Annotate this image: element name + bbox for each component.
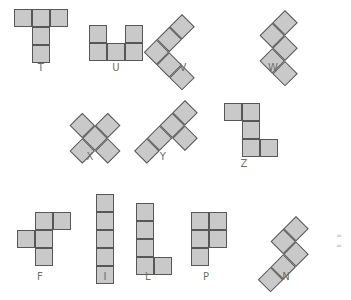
pentomino-p-cell — [191, 230, 209, 248]
pentomino-z-cell — [260, 139, 278, 157]
pentomino-label-x: X — [70, 152, 110, 162]
pentomino-t-cell — [14, 9, 32, 27]
edge-artifact-mark: ≈ — [336, 233, 342, 240]
pentomino-l-cell — [136, 203, 154, 221]
pentomino-p-cell — [191, 248, 209, 266]
edge-artifact-mark: ≈ — [336, 243, 342, 250]
pentomino-u-cell — [125, 43, 143, 61]
pentomino-u-cell — [107, 43, 125, 61]
pentomino-f-cell — [35, 212, 53, 230]
pentomino-label-f: F — [20, 272, 60, 282]
pentomino-f-cell — [35, 230, 53, 248]
pentomino-u-cell — [89, 25, 107, 43]
pentomino-i-cell — [96, 212, 114, 230]
pentomino-label-v: V — [163, 63, 203, 73]
pentomino-label-u: U — [96, 63, 136, 73]
pentomino-label-i: I — [85, 272, 125, 282]
pentomino-l-cell — [136, 221, 154, 239]
pentomino-z-cell — [224, 103, 242, 121]
pentomino-t-cell — [32, 9, 50, 27]
pentomino-u-cell — [125, 25, 143, 43]
pentomino-z-cell — [242, 139, 260, 157]
pentomino-label-l: L — [128, 272, 168, 282]
pentomino-t-cell — [50, 9, 68, 27]
pentomino-p-cell — [191, 212, 209, 230]
pentomino-label-n: N — [266, 272, 306, 282]
pentomino-t-cell — [32, 27, 50, 45]
pentomino-label-w: W — [253, 63, 293, 73]
pentomino-label-p: P — [186, 272, 226, 282]
pentomino-p-cell — [209, 230, 227, 248]
pentomino-u-cell — [89, 43, 107, 61]
pentomino-label-z: Z — [224, 159, 264, 169]
pentomino-z-cell — [242, 121, 260, 139]
pentomino-i-cell — [96, 230, 114, 248]
pentomino-label-y: Y — [143, 152, 183, 162]
pentomino-i-cell — [96, 248, 114, 266]
pentomino-l-cell — [136, 239, 154, 257]
pentomino-i-cell — [96, 194, 114, 212]
pentomino-f-cell — [53, 212, 71, 230]
pentomino-label-t: T — [21, 63, 61, 73]
pentomino-t-cell — [32, 45, 50, 63]
pentomino-p-cell — [209, 212, 227, 230]
pentomino-z-cell — [242, 103, 260, 121]
pentomino-f-cell — [17, 230, 35, 248]
pentomino-chart: TUVWXYZFILPN≈≈ — [0, 0, 351, 300]
pentomino-f-cell — [35, 248, 53, 266]
